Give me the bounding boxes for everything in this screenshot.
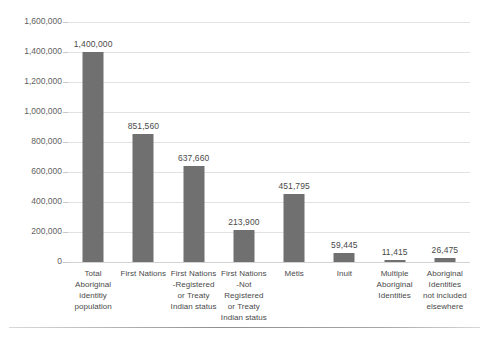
bar-slot: 637,660	[169, 22, 219, 262]
category-label-line: First Nations	[216, 268, 272, 279]
bar-slot: 11,415	[370, 22, 420, 262]
category-label-line: First Nations	[115, 268, 171, 279]
category-label-line: Total	[65, 268, 121, 279]
bar-slot: 1,400,000	[68, 22, 118, 262]
category-label-line: or Treaty	[166, 290, 222, 301]
y-axis-tick-label: 800,000	[0, 136, 62, 146]
category-label-line: Aboriginal	[367, 279, 423, 290]
bar-value-label: 26,475	[432, 245, 459, 255]
y-axis-tick-label: 1,400,000	[0, 46, 62, 56]
bar[interactable]	[83, 52, 104, 262]
x-axis-category-label: First Nations	[115, 268, 171, 279]
bar-slot: 451,795	[269, 22, 319, 262]
category-label-line: Multiple	[367, 268, 423, 279]
bar[interactable]	[434, 258, 455, 262]
bar-slot: 59,445	[319, 22, 369, 262]
bar-value-label: 451,795	[278, 181, 309, 191]
category-label-line: population	[65, 301, 121, 312]
category-label-line: Aboriginal	[65, 279, 121, 290]
category-label-line: Identities	[417, 279, 473, 290]
bar[interactable]	[183, 166, 204, 262]
y-axis-tick-label: 400,000	[0, 196, 62, 206]
category-label-line: Indian status	[216, 312, 272, 323]
bar[interactable]	[233, 230, 254, 262]
category-label-line: identitiy	[65, 290, 121, 301]
category-label-line: -Registered	[166, 279, 222, 290]
category-label-line: -Not Registered	[216, 279, 272, 301]
y-axis-tick-label: 1,000,000	[0, 106, 62, 116]
category-label-line: elsewhere	[417, 301, 473, 312]
bar[interactable]	[334, 253, 355, 262]
x-axis-category-labels: TotalAboriginalidentitiypopulationFirst …	[68, 268, 470, 332]
category-label-line: Inuit	[316, 268, 372, 279]
x-axis-category-label: First Nations-Not Registeredor TreatyInd…	[216, 268, 272, 323]
bar-slot: 851,560	[118, 22, 168, 262]
y-axis-tick-label: 1,600,000	[0, 16, 62, 26]
category-label-line: or Treaty	[216, 301, 272, 312]
x-axis-category-label: Inuit	[316, 268, 372, 279]
category-label-line: First Nations	[166, 268, 222, 279]
x-axis-category-label: Métis	[266, 268, 322, 279]
bar-chart-figure: 1,600,0001,400,0001,200,0001,000,000800,…	[0, 0, 490, 339]
bar-value-label: 851,560	[128, 121, 159, 131]
category-label-line: not included	[417, 290, 473, 301]
bar-value-label: 59,445	[331, 240, 358, 250]
bar[interactable]	[133, 134, 154, 262]
page-rule-divider	[9, 327, 480, 328]
bar[interactable]	[384, 260, 405, 262]
y-axis-tick-label: 0	[0, 256, 62, 266]
y-axis-tick-label: 600,000	[0, 166, 62, 176]
y-axis-tick-label: 200,000	[0, 226, 62, 236]
bar-slot: 213,900	[219, 22, 269, 262]
bar[interactable]	[284, 194, 305, 262]
category-label-line: Métis	[266, 268, 322, 279]
x-axis-category-label: First Nations-Registeredor TreatyIndian …	[166, 268, 222, 312]
x-axis-category-label: TotalAboriginalidentitiypopulation	[65, 268, 121, 312]
category-label-line: Indian status	[166, 301, 222, 312]
bar-value-label: 213,900	[228, 217, 259, 227]
x-axis-category-label: AboriginalIdentitiesnot includedelsewher…	[417, 268, 473, 312]
y-axis-tick-label: 1,200,000	[0, 76, 62, 86]
bars-layer: 1,400,000851,560637,660213,900451,79559,…	[68, 22, 470, 262]
bar-slot: 26,475	[420, 22, 470, 262]
bar-value-label: 637,660	[178, 153, 209, 163]
bar-value-label: 1,400,000	[74, 39, 113, 49]
gridline	[68, 262, 470, 263]
bar-value-label: 11,415	[382, 247, 408, 257]
category-label-line: Identities	[367, 290, 423, 301]
x-axis-category-label: MultipleAboriginalIdentities	[367, 268, 423, 301]
category-label-line: Aboriginal	[417, 268, 473, 279]
